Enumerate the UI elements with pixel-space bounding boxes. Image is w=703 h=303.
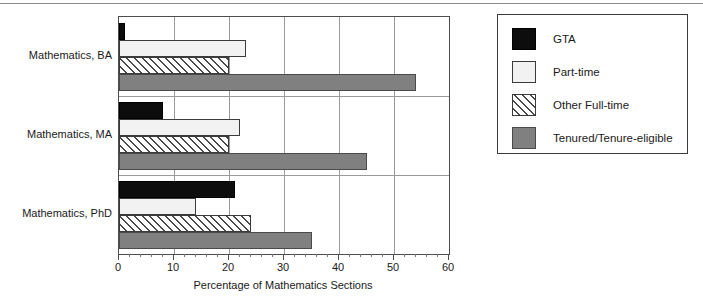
x-axis-tick-major bbox=[338, 254, 339, 260]
x-axis-tick-major bbox=[118, 254, 119, 260]
legend-swatch-part-time-icon bbox=[512, 61, 536, 83]
legend-label-tenured: Tenured/Tenure-eligible bbox=[553, 132, 673, 144]
gridline-group-separator bbox=[119, 175, 449, 176]
x-axis-tick-minor bbox=[404, 254, 405, 257]
gridline-vertical bbox=[284, 17, 285, 254]
x-axis-tick-label: 60 bbox=[442, 261, 454, 273]
x-axis-tick-label: 50 bbox=[387, 261, 399, 273]
legend-item-part-time[interactable]: Part-time bbox=[498, 56, 687, 87]
gridline-vertical bbox=[394, 17, 395, 254]
bar-mathematics-ma-part-time bbox=[119, 119, 240, 136]
x-axis-tick-minor bbox=[217, 254, 218, 257]
legend-item-gta[interactable]: GTA bbox=[498, 23, 687, 54]
bar-mathematics-ba-tenured-tenure-eligible bbox=[119, 74, 416, 91]
x-axis-tick-minor bbox=[195, 254, 196, 257]
x-axis-tick-minor bbox=[151, 254, 152, 257]
bar-mathematics-ma-other-full-time bbox=[119, 136, 229, 153]
x-axis-tick-minor bbox=[261, 254, 262, 257]
bar-mathematics-ba-gta bbox=[119, 23, 125, 40]
y-axis-label-mathematics-ma: Mathematics, MA bbox=[0, 128, 112, 140]
bar-chart-figure: Mathematics, BA Mathematics, MA Mathemat… bbox=[0, 0, 470, 303]
bar-mathematics-ma-tenured-tenure-eligible bbox=[119, 153, 367, 170]
x-axis-tick-minor bbox=[129, 254, 130, 257]
bar-mathematics-ba-part-time bbox=[119, 40, 246, 57]
plot-area bbox=[118, 16, 450, 255]
x-axis-tick-major bbox=[448, 254, 449, 260]
x-axis-tick-minor bbox=[305, 254, 306, 257]
legend-swatch-gta-icon bbox=[512, 28, 536, 50]
y-axis-label-mathematics-phd: Mathematics, PhD bbox=[0, 207, 112, 219]
legend-swatch-tenured-icon bbox=[512, 127, 536, 149]
bar-mathematics-phd-other-full-time bbox=[119, 215, 251, 232]
x-axis-tick-minor bbox=[140, 254, 141, 257]
bar-mathematics-phd-part-time bbox=[119, 198, 196, 215]
x-axis-tick-minor bbox=[426, 254, 427, 257]
x-axis-tick-minor bbox=[162, 254, 163, 257]
legend-label-other-full-time: Other Full-time bbox=[553, 99, 629, 111]
legend-item-other-full-time[interactable]: Other Full-time bbox=[498, 89, 687, 120]
x-axis-tick-minor bbox=[371, 254, 372, 257]
bar-mathematics-ba-other-full-time bbox=[119, 57, 229, 74]
legend-swatch-other-full-time-icon bbox=[512, 94, 536, 116]
x-axis-tick-minor bbox=[327, 254, 328, 257]
bar-mathematics-phd-tenured-tenure-eligible bbox=[119, 232, 312, 249]
bar-mathematics-phd-gta bbox=[119, 181, 235, 198]
x-axis-tick-minor bbox=[250, 254, 251, 257]
x-axis-title: Percentage of Mathematics Sections bbox=[118, 279, 448, 291]
x-axis-tick-minor bbox=[349, 254, 350, 257]
x-axis-tick-label: 10 bbox=[167, 261, 179, 273]
x-axis-tick-minor bbox=[437, 254, 438, 257]
x-axis-tick-minor bbox=[382, 254, 383, 257]
legend-item-tenured[interactable]: Tenured/Tenure-eligible bbox=[498, 122, 687, 153]
x-axis-tick-label: 20 bbox=[222, 261, 234, 273]
x-axis-tick-minor bbox=[272, 254, 273, 257]
x-axis-tick-minor bbox=[206, 254, 207, 257]
x-axis-tick-minor bbox=[294, 254, 295, 257]
x-axis-tick-label: 30 bbox=[277, 261, 289, 273]
x-axis-tick-label: 40 bbox=[332, 261, 344, 273]
x-axis-tick-major bbox=[173, 254, 174, 260]
x-axis-tick-minor bbox=[239, 254, 240, 257]
gridline-group-separator bbox=[119, 96, 449, 97]
y-axis-label-mathematics-ba: Mathematics, BA bbox=[0, 49, 112, 61]
legend-label-gta: GTA bbox=[553, 33, 576, 45]
x-axis-tick-label: 0 bbox=[115, 261, 121, 273]
gridline-vertical bbox=[339, 17, 340, 254]
x-axis-tick-major bbox=[393, 254, 394, 260]
x-axis-tick-major bbox=[228, 254, 229, 260]
x-axis-tick-major bbox=[283, 254, 284, 260]
bar-mathematics-ma-gta bbox=[119, 102, 163, 119]
x-axis-tick-minor bbox=[184, 254, 185, 257]
legend-label-part-time: Part-time bbox=[553, 66, 600, 78]
chart-legend: GTA Part-time Other Full-time Tenured/Te… bbox=[497, 14, 688, 154]
x-axis-tick-minor bbox=[360, 254, 361, 257]
x-axis-tick-minor bbox=[415, 254, 416, 257]
x-axis-tick-minor bbox=[316, 254, 317, 257]
